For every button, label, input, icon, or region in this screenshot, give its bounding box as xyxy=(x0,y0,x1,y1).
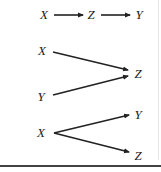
node-chain-x: X xyxy=(40,8,48,22)
edges-layer xyxy=(0,0,161,172)
arrow-icon-collider-y-to-z xyxy=(53,76,128,95)
node-collider-x: X xyxy=(38,44,46,58)
node-fork-z: Z xyxy=(134,149,141,163)
right-border-line xyxy=(158,0,159,160)
node-fork-y: Y xyxy=(134,108,141,122)
node-fork-x: X xyxy=(37,126,45,140)
arrow-icon-collider-x-to-z xyxy=(53,52,128,70)
node-chain-z: Z xyxy=(87,8,94,22)
node-collider-z: Z xyxy=(134,67,141,81)
arrow-icon-fork-x-to-z xyxy=(54,133,129,152)
node-collider-y: Y xyxy=(37,90,44,104)
node-chain-y: Y xyxy=(135,8,142,22)
bottom-divider-rule xyxy=(0,165,161,167)
causal-diagrams-figure: XZYXYZXYZ xyxy=(0,0,161,172)
arrow-icon-fork-x-to-y xyxy=(54,115,129,133)
